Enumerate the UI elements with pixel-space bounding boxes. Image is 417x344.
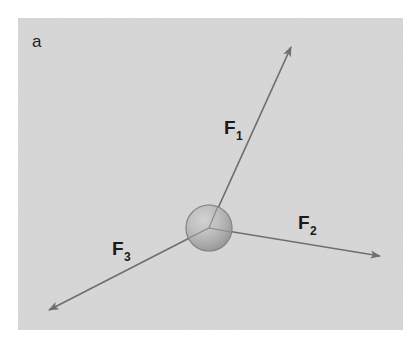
sphere-texture <box>186 205 232 251</box>
particle-sphere <box>186 205 232 251</box>
vector-F1-subscript: 1 <box>236 129 243 143</box>
force-diagram: a F 1 F 2 F 3 <box>0 0 417 344</box>
vector-F2-subscript: 2 <box>310 224 317 238</box>
vector-F3-label: F <box>112 238 124 259</box>
vector-F2-label: F <box>298 212 310 233</box>
vector-F1-label: F <box>224 117 236 138</box>
vector-F3-subscript: 3 <box>124 250 131 264</box>
panel-background <box>18 18 403 330</box>
figure-root: a F 1 F 2 F 3 <box>0 0 417 344</box>
panel-label: a <box>32 32 42 51</box>
